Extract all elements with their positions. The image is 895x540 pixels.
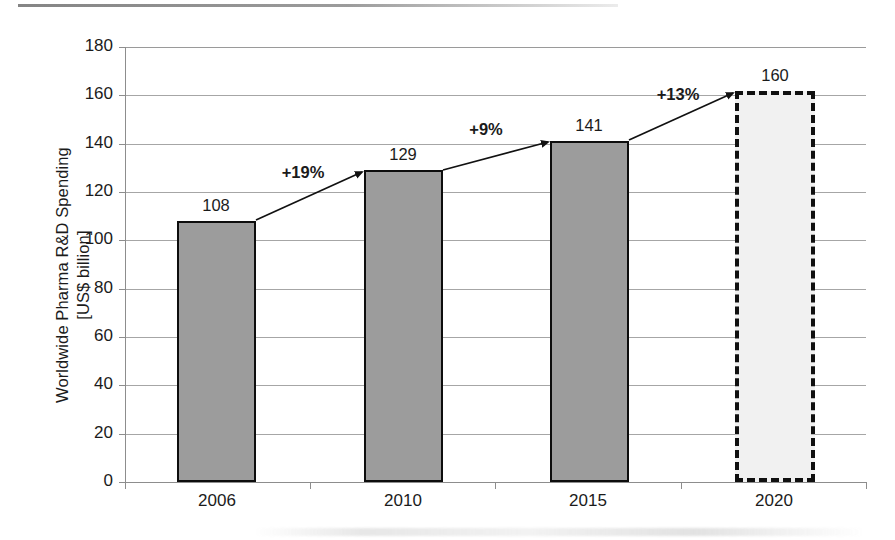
- y-tick-label-160: 160: [53, 84, 113, 104]
- bar-value-2010: 129: [333, 145, 473, 164]
- x-tick-mark-3: [681, 482, 682, 489]
- y-tick-label-180: 180: [53, 36, 113, 56]
- y-tick-mark-100: [119, 240, 126, 241]
- x-tick-mark-1: [310, 482, 311, 489]
- bar-value-2006: 108: [146, 196, 286, 215]
- x-tick-mark-0: [125, 482, 126, 489]
- y-tick-mark-40: [119, 385, 126, 386]
- y-axis-line: [125, 47, 126, 483]
- x-tick-mark-2: [495, 482, 496, 489]
- y-tick-label-140: 140: [53, 133, 113, 153]
- y-tick-label-60: 60: [53, 326, 113, 346]
- x-tick-label-2010: 2010: [343, 491, 463, 511]
- y-tick-mark-20: [119, 434, 126, 435]
- gridline-180: [125, 47, 866, 48]
- y-tick-label-100: 100: [53, 229, 113, 249]
- y-tick-label-20: 20: [53, 423, 113, 443]
- y-tick-label-120: 120: [53, 181, 113, 201]
- y-tick-mark-180: [119, 47, 126, 48]
- bar-2006[interactable]: [177, 221, 256, 482]
- bar-2010[interactable]: [364, 170, 443, 482]
- x-tick-label-2006: 2006: [157, 491, 277, 511]
- y-tick-labels: 180 160 140 120 100 80 60 40 20 0: [48, 47, 113, 483]
- y-tick-mark-60: [119, 337, 126, 338]
- growth-label-2015-2020: +13%: [633, 85, 723, 104]
- y-tick-label-80: 80: [53, 278, 113, 298]
- y-tick-label-40: 40: [53, 374, 113, 394]
- growth-label-2006-2010: +19%: [258, 163, 348, 182]
- x-tick-mark-4: [866, 482, 867, 489]
- y-tick-mark-80: [119, 289, 126, 290]
- bar-2015[interactable]: [550, 141, 629, 482]
- y-tick-mark-120: [119, 192, 126, 193]
- y-tick-label-0: 0: [53, 471, 113, 491]
- bar-value-2020: 160: [705, 66, 845, 85]
- chart-page: Worldwide Pharma R&D Spending[US$ billio…: [0, 0, 895, 540]
- growth-label-2010-2015: +9%: [441, 120, 531, 139]
- bar-value-2015: 141: [519, 116, 659, 135]
- bar-chart: Worldwide Pharma R&D Spending[US$ billio…: [0, 0, 895, 540]
- bar-2020-forecast[interactable]: [735, 91, 815, 482]
- y-tick-mark-160: [119, 95, 126, 96]
- x-tick-label-2015: 2015: [528, 491, 648, 511]
- x-tick-label-2020: 2020: [714, 491, 834, 511]
- y-tick-mark-140: [119, 144, 126, 145]
